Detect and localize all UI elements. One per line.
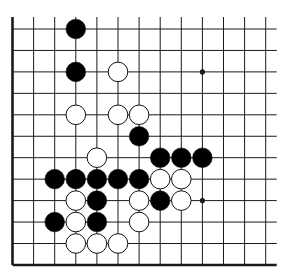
white-stone <box>108 234 128 254</box>
black-stone <box>45 169 65 189</box>
white-stone <box>150 169 170 189</box>
black-stone <box>129 126 149 146</box>
star-point <box>200 69 205 74</box>
white-stone <box>129 191 149 211</box>
black-stone <box>87 212 107 232</box>
white-stone <box>66 212 86 232</box>
white-stone <box>172 169 192 189</box>
white-stone <box>129 212 149 232</box>
white-stone <box>66 191 86 211</box>
black-stone <box>87 169 107 189</box>
white-stone <box>66 234 86 254</box>
white-stone <box>108 105 128 125</box>
black-stone <box>193 148 213 168</box>
black-stone <box>172 148 192 168</box>
black-stone <box>129 169 149 189</box>
white-stone <box>87 234 107 254</box>
white-stone <box>87 148 107 168</box>
black-stone <box>66 19 86 39</box>
white-stone <box>66 105 86 125</box>
black-stone <box>108 169 128 189</box>
black-stone <box>45 212 65 232</box>
black-stone <box>87 191 107 211</box>
white-stone <box>129 105 149 125</box>
black-stone <box>66 62 86 82</box>
go-board <box>0 0 291 277</box>
black-stone <box>66 169 86 189</box>
star-point <box>200 198 205 203</box>
white-stone <box>108 62 128 82</box>
black-stone <box>150 148 170 168</box>
white-stone <box>172 191 192 211</box>
black-stone <box>150 191 170 211</box>
